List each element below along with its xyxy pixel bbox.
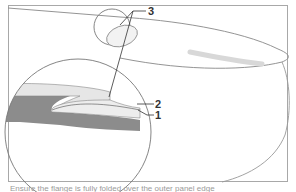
callout-3-leader <box>109 11 146 97</box>
callout-3-label: 3 <box>148 5 154 17</box>
panel-outline <box>8 8 288 68</box>
callout-1-leader <box>138 110 154 115</box>
callout-1-label: 1 <box>155 109 161 121</box>
panel-shading <box>190 52 262 64</box>
fold-lip <box>104 21 141 51</box>
magnified-view <box>0 83 140 131</box>
diagram-caption: Ensure the flange is fully folded over t… <box>10 185 290 192</box>
fold-detail-diagram: 3 2 1 <box>0 0 296 192</box>
panel-lower-edge <box>222 62 289 182</box>
